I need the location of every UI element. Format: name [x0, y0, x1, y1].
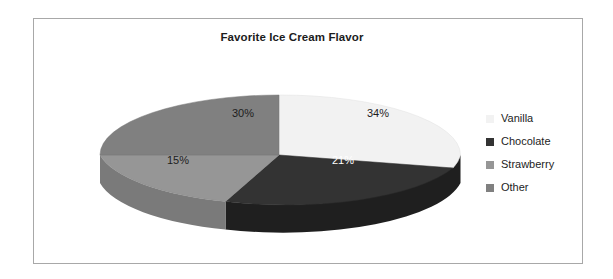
pie-label-chocolate: 21% [332, 154, 354, 166]
chart-title: Favorite Ice Cream Flavor [34, 31, 550, 43]
legend-label: Other [501, 182, 529, 193]
legend-item-vanilla[interactable]: Vanilla [486, 107, 582, 130]
legend-label: Vanilla [501, 113, 533, 124]
legend-swatch-icon [486, 184, 494, 192]
legend-label: Strawberry [501, 159, 554, 170]
pie-label-other: 30% [232, 107, 254, 119]
chart-frame: Favorite Ice Cream Flavor [33, 18, 583, 264]
legend-swatch-icon [486, 161, 494, 169]
chart-legend: Vanilla Chocolate Strawberry Other [486, 107, 582, 199]
pie-chart: 34% 21% 15% 30% [50, 61, 480, 241]
pie-label-strawberry: 15% [167, 154, 189, 166]
legend-label: Chocolate [501, 136, 551, 147]
legend-item-chocolate[interactable]: Chocolate [486, 130, 582, 153]
legend-swatch-icon [486, 115, 494, 123]
pie-slice-other [100, 95, 279, 155]
legend-swatch-icon [486, 138, 494, 146]
pie-label-vanilla: 34% [367, 107, 389, 119]
legend-item-strawberry[interactable]: Strawberry [486, 153, 582, 176]
legend-item-other[interactable]: Other [486, 176, 582, 199]
pie-chart-svg: 34% 21% 15% 30% [50, 61, 480, 241]
